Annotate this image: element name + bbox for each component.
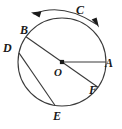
center-point-dot bbox=[60, 60, 64, 64]
arc-arrow-left-head bbox=[31, 11, 42, 17]
point-label-B: B bbox=[20, 24, 28, 36]
center-label-O: O bbox=[54, 66, 62, 78]
arc-arrow-label-C: C bbox=[76, 4, 84, 16]
point-label-D: D bbox=[3, 42, 12, 54]
point-label-A: A bbox=[105, 57, 113, 69]
point-label-E: E bbox=[53, 110, 61, 122]
point-label-F: F bbox=[89, 84, 97, 96]
circle-diagram: A B D E F O C bbox=[0, 0, 122, 129]
